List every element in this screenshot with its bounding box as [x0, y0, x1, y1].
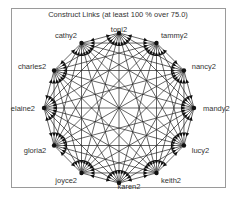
- arrowhead-icon: [185, 79, 189, 83]
- arrowhead-icon: [144, 41, 148, 45]
- node-joyce2: [79, 171, 83, 175]
- node-label: keith2: [161, 176, 181, 185]
- arrowhead-icon: [182, 133, 186, 137]
- edge: [44, 108, 157, 173]
- arrowhead-icon: [49, 132, 53, 136]
- edge: [54, 43, 156, 145]
- node-label: tammy2: [161, 31, 188, 40]
- node-label: lucy2: [192, 146, 210, 155]
- arrowhead-icon: [143, 174, 147, 178]
- edge: [82, 43, 184, 145]
- node-label: charles2: [18, 62, 46, 71]
- edge: [82, 71, 184, 173]
- arrowhead-icon: [90, 38, 94, 42]
- node-label: gloria2: [24, 146, 47, 155]
- node-gloria2: [52, 143, 56, 147]
- node-label: nancy2: [192, 62, 216, 71]
- arrowhead-icon: [182, 80, 186, 84]
- node-mandy2: [192, 106, 196, 110]
- arrowhead-icon: [53, 106, 57, 110]
- node-nancy2: [182, 68, 186, 72]
- arrowhead-icon: [91, 41, 95, 45]
- arrowhead-icon: [91, 171, 95, 175]
- arrowhead-icon: [143, 38, 147, 42]
- edges: [44, 33, 194, 183]
- arrowhead-icon: [117, 42, 121, 46]
- node-lucy2: [182, 143, 186, 147]
- node-label: mandy2: [203, 104, 230, 113]
- arrowhead-icon: [185, 132, 189, 136]
- node-label: elaine2: [11, 104, 35, 113]
- arrowhead-icon: [117, 170, 121, 174]
- node-cathy2: [79, 41, 83, 45]
- edge: [54, 71, 156, 173]
- node-label: karen2: [118, 182, 141, 191]
- arrowhead-icon: [52, 80, 56, 84]
- arrowhead-icon: [90, 174, 94, 178]
- arrowhead-icon: [52, 133, 56, 137]
- node-charles2: [52, 68, 56, 72]
- arrowhead-icon: [181, 106, 185, 110]
- node-tammy2: [154, 41, 158, 45]
- edge: [82, 43, 195, 108]
- node-label: cathy2: [55, 31, 77, 40]
- node-label: joyce2: [54, 176, 77, 185]
- node-keith2: [154, 171, 158, 175]
- construct-links-graph: toni2tammy2nancy2mandy2lucy2keith2karen2…: [0, 0, 236, 200]
- node-elaine2: [42, 106, 46, 110]
- node-label: toni2: [111, 25, 127, 34]
- arrowhead-icon: [49, 79, 53, 83]
- arrowhead-icon: [144, 171, 148, 175]
- edge: [54, 71, 119, 184]
